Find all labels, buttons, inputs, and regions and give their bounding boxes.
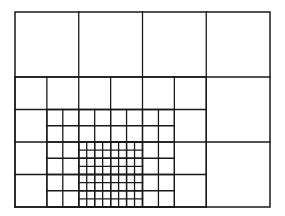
quadtree-grid: [0, 0, 285, 216]
mesh-diagram: [0, 0, 285, 216]
